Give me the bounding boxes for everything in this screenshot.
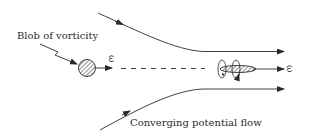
upper-streamline — [98, 13, 284, 52]
blob-of-vorticity — [79, 60, 96, 77]
vortex-stretching-diagram: Blob of vorticity ω ω Converging potenti… — [0, 0, 309, 137]
flow-label: Converging potential flow — [130, 117, 262, 128]
blob-label: Blob of vorticity — [17, 30, 99, 41]
blob-leader-arrow — [40, 44, 77, 64]
omega-label-left: ω — [107, 55, 117, 62]
stretched-vortex — [218, 60, 256, 78]
omega-label-right: ω — [285, 65, 295, 72]
